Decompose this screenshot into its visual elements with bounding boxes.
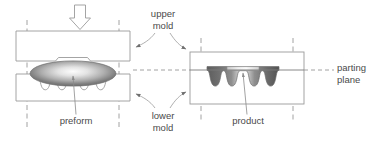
label-lower-mold: lower mold <box>133 110 193 133</box>
label-upper-mold-line2: mold <box>133 20 193 32</box>
upper-mold-leader-left <box>136 33 155 47</box>
preform-billet <box>30 61 116 86</box>
label-lower-mold-line1: lower <box>133 110 193 122</box>
lower-mold-leader-left <box>136 94 155 108</box>
label-upper-mold: upper mold <box>133 8 193 31</box>
mold-leader-lines <box>136 33 186 108</box>
upper-mold-block <box>16 31 130 61</box>
label-upper-mold-line1: upper <box>133 8 193 20</box>
lower-mold-leader-right <box>170 92 186 108</box>
label-parting-plane: parting plane <box>337 62 380 85</box>
label-parting-plane-line1: parting <box>337 62 380 74</box>
closed-mold-block <box>190 52 304 104</box>
label-lower-mold-line2: mold <box>133 122 193 134</box>
label-product: product <box>216 115 280 127</box>
upper-mold-leader-right <box>170 33 186 49</box>
left-assembly <box>16 5 130 127</box>
label-preform: preform <box>44 115 108 127</box>
label-parting-plane-line2: plane <box>337 74 380 86</box>
down-arrow-icon <box>70 5 91 30</box>
diagram-canvas: upper mold lower mold parting plane pref… <box>0 0 380 145</box>
right-assembly <box>190 38 304 122</box>
